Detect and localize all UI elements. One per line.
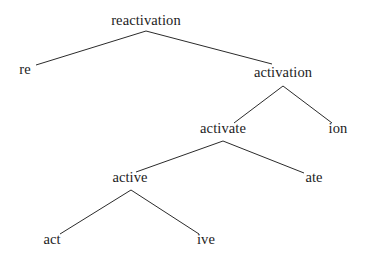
edge-reactivation-re [36, 31, 146, 65]
edge-activate-ate [223, 141, 304, 173]
morphological-tree-figure: reactivation re activation activate ion … [0, 0, 365, 263]
tree-node-act: act [43, 232, 60, 247]
edge-activation-ion [283, 86, 332, 123]
tree-node-ive: ive [197, 232, 215, 247]
tree-node-activation: activation [254, 65, 312, 80]
edge-active-ive [131, 190, 199, 234]
edge-activation-activate [234, 86, 283, 123]
edge-reactivation-activation [146, 31, 272, 64]
tree-node-activate: activate [200, 121, 246, 136]
tree-node-re: re [19, 62, 30, 77]
edge-active-act [60, 190, 131, 234]
tree-node-ion: ion [329, 121, 348, 136]
tree-edges-layer [0, 0, 365, 263]
edge-activate-active [136, 141, 223, 172]
tree-node-ate: ate [305, 170, 322, 185]
tree-node-reactivation: reactivation [111, 13, 181, 28]
tree-node-active: active [112, 170, 147, 185]
